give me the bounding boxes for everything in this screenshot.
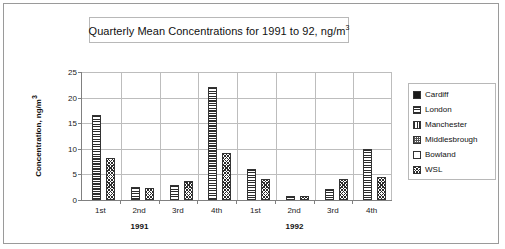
x-tick-mark-2 [159,200,160,204]
bar-london-1992-q3 [325,189,334,200]
bar-london-1992-q4 [363,149,372,200]
x-tick-label-1992-q1: 1st [235,206,275,215]
bar-london-1991-q3 [170,185,179,200]
bar-london-1991-q2 [131,187,140,200]
bar-wsl-1992-q2 [300,196,309,200]
bar-wsl-1991-q4 [222,153,231,200]
bar-wsl-1992-q4 [377,177,386,200]
plot-area [81,72,392,201]
x-tick-mark-1 [120,200,121,204]
y-axis-title-superscript: 3 [31,95,38,99]
y-tick-label-5: 5 [57,170,77,179]
legend-label-wsl: WSL [425,165,442,174]
legend-swatch-middlesbrough-icon [413,136,421,144]
group-separator-4 [237,72,238,200]
legend-item-london: London [413,102,495,117]
x-group-label-1992: 1992 [265,222,325,231]
legend-item-middlesbrough: Middlesbrough [413,132,495,147]
legend-swatch-cardiff-icon [413,91,421,99]
group-separator-8 [391,72,392,200]
bar-london-1991-q4 [208,87,217,200]
x-tick-label-1992-q4: 4th [352,206,392,215]
bar-wsl-1992-q1 [261,179,270,201]
chart-title: Quarterly Mean Concentrations for 1991 t… [89,17,349,43]
legend-label-manchester: Manchester [425,120,467,129]
group-separator-3 [198,72,199,200]
figure-frame: Quarterly Mean Concentrations for 1991 t… [3,3,499,244]
bar-london-1992-q2 [286,196,295,200]
legend-item-bowland: Bowland [413,147,495,162]
x-tick-mark-5 [275,200,276,204]
y-tick-label-0: 0 [57,196,77,205]
y-tick-label-25: 25 [57,68,77,77]
screenshot-root: Quarterly Mean Concentrations for 1991 t… [0,0,505,249]
legend-label-cardiff: Cardiff [425,90,448,99]
bar-wsl-1991-q3 [184,181,193,201]
y-axis-title: Concentration, ng/m3 [29,72,41,200]
legend-swatch-wsl-icon [413,166,421,174]
group-separator-6 [315,72,316,200]
y-tick-label-20: 20 [57,93,77,102]
bar-london-1991-q1 [92,115,101,201]
y-tick-label-15: 15 [57,119,77,128]
legend-label-bowland: Bowland [425,150,456,159]
chart-legend: Cardiff London Manchester Middlesbrough … [408,83,496,180]
x-tick-mark-3 [197,200,198,204]
x-tick-mark-6 [314,200,315,204]
legend-swatch-bowland-icon [413,151,421,159]
chart-title-text: Quarterly Mean Concentrations for 1991 t… [89,24,350,37]
legend-swatch-manchester-icon [413,121,421,129]
legend-swatch-london-icon [413,106,421,114]
x-tick-label-1991-q2: 2nd [119,206,159,215]
legend-item-cardiff: Cardiff [413,87,495,102]
legend-label-middlesbrough: Middlesbrough [425,135,477,144]
bar-wsl-1991-q1 [106,158,115,200]
group-separator-1 [121,72,122,200]
x-tick-mark-4 [236,200,237,204]
x-tick-label-1991-q3: 3rd [158,206,198,215]
group-separator-7 [353,72,354,200]
bar-wsl-1992-q3 [339,179,348,200]
x-tick-label-1992-q3: 3rd [313,206,353,215]
y-tick-label-10: 10 [57,144,77,153]
chart-title-superscript: 3 [345,24,349,31]
x-tick-label-1992-q2: 2nd [274,206,314,215]
legend-item-manchester: Manchester [413,117,495,132]
x-tick-mark-7 [352,200,353,204]
x-tick-label-1991-q4: 4th [197,206,237,215]
legend-item-wsl: WSL [413,162,495,177]
bar-wsl-1991-q2 [145,188,154,200]
group-separator-2 [160,72,161,200]
legend-label-london: London [425,105,452,114]
x-group-label-1991: 1991 [110,222,170,231]
x-tick-label-1991-q1: 1st [80,206,120,215]
bar-london-1992-q1 [247,169,256,200]
group-separator-5 [276,72,277,200]
